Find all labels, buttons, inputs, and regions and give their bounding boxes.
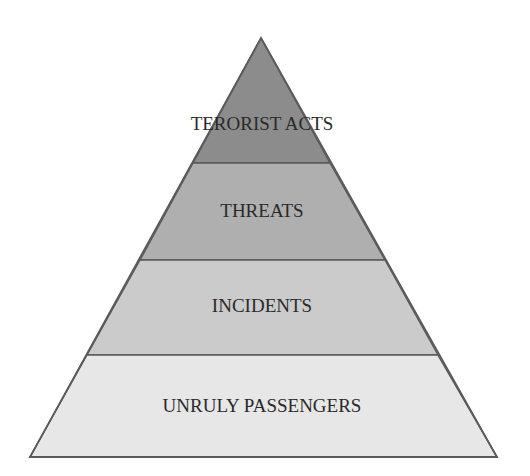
tier-terrorist-acts-label: TERORIST ACTS xyxy=(191,113,334,134)
tier-incidents-label: INCIDENTS xyxy=(212,295,312,316)
tier-unruly-passengers-label: UNRULY PASSENGERS xyxy=(163,395,362,416)
tier-terrorist-acts-shape xyxy=(193,38,330,163)
pyramid-diagram: TERORIST ACTS THREATS INCIDENTS UNRULY P… xyxy=(0,0,530,476)
tier-threats-label: THREATS xyxy=(220,200,303,221)
